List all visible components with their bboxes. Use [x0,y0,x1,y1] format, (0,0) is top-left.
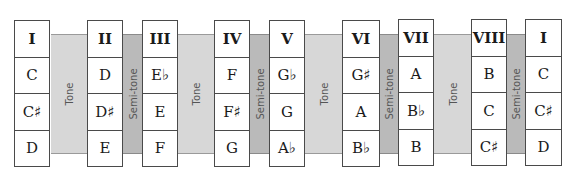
band-label: Tone [318,82,329,105]
band-label: Tone [447,82,458,105]
note-cell: F [143,130,177,167]
note-cell: D [526,129,561,166]
semitone-band-1: Semi-tone [123,34,142,154]
note-cell: F [215,57,249,94]
note-cell: D [15,130,49,167]
tone-band-1: Tone [51,34,87,154]
degree-label: V [270,21,304,57]
degree-column-8: VIII B C C♯ [471,19,507,166]
note-cell: A [399,56,433,93]
degree-label: I [526,20,561,56]
note-cell: C [472,92,506,129]
note-cell: C [526,56,561,93]
tone-band-4: Tone [434,34,471,154]
degree-label: I [15,21,49,57]
note-cell: C [15,57,49,94]
band-label: Semi-tone [383,68,394,119]
degree-label: VI [343,21,379,57]
degree-column-7: VII A B♭ B [398,19,434,166]
note-cell: G♭ [270,57,304,94]
band-label: Semi-tone [511,68,522,119]
tone-band-2: Tone [178,34,214,154]
note-cell: A [343,93,379,130]
note-cell: D♯ [88,93,122,130]
degree-column-4: IV F F♯ G [214,20,250,167]
note-cell: D [88,57,122,94]
degree-column-3: III E♭ E F [142,20,178,167]
degree-label: VII [399,20,433,56]
band-label: Semi-tone [254,68,265,119]
degree-label: VIII [472,20,506,56]
note-cell: C♯ [15,93,49,130]
semitone-band-2: Semi-tone [250,34,269,154]
band-label: Semi-tone [127,68,138,119]
note-cell: B♭ [399,92,433,129]
note-cell: F♯ [215,93,249,130]
degree-label: III [143,21,177,57]
semitone-band-3: Semi-tone [379,34,398,154]
note-cell: C♯ [526,92,561,129]
note-cell: G [215,130,249,167]
note-cell: A♭ [270,130,304,167]
degree-column-1: I C C♯ D [14,20,50,167]
note-cell: G♯ [343,57,379,94]
semitone-band-4: Semi-tone [507,34,525,154]
band-label: Tone [64,82,75,105]
note-cell: B [399,129,433,166]
note-cell: C♯ [472,129,506,166]
degree-column-9: I C C♯ D [525,19,562,166]
note-cell: B♭ [343,130,379,167]
degree-column-6: VI G♯ A B♭ [342,20,380,167]
band-label: Tone [191,82,202,105]
degree-column-5: V G♭ G A♭ [269,20,305,167]
degree-column-2: II D D♯ E [87,20,123,167]
note-cell: G [270,93,304,130]
note-cell: E [88,130,122,167]
note-cell: E [143,93,177,130]
degree-label: IV [215,21,249,57]
degree-label: II [88,21,122,57]
note-cell: B [472,56,506,93]
note-cell: E♭ [143,57,177,94]
tone-band-3: Tone [305,34,342,154]
